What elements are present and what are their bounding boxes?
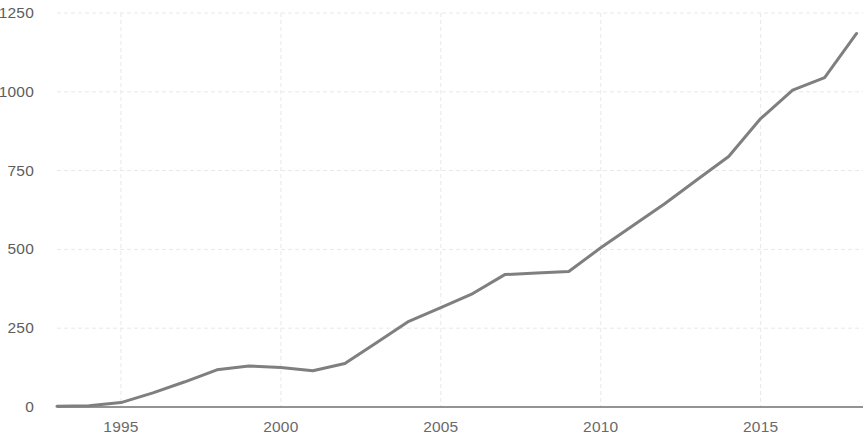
y-axis-tick-label: 250 xyxy=(0,320,34,336)
x-axis-tick-label: 2005 xyxy=(423,419,458,435)
horizontal-gridlines xyxy=(57,13,863,328)
y-axis-tick-label: 1000 xyxy=(0,84,34,100)
line-chart: 025050075010001250 19952000200520102015 xyxy=(0,0,863,441)
chart-plot-area xyxy=(0,0,863,441)
y-axis-tick-label: 0 xyxy=(0,399,34,415)
y-axis-tick-label: 500 xyxy=(0,241,34,257)
x-axis-tick-label: 2010 xyxy=(583,419,618,435)
y-axis-tick-label: 750 xyxy=(0,163,34,179)
x-axis-tick-label: 2015 xyxy=(743,419,778,435)
data-series-line xyxy=(57,33,857,406)
x-axis-tick-label: 1995 xyxy=(103,419,138,435)
x-axis-tick-label: 2000 xyxy=(263,419,298,435)
vertical-gridlines xyxy=(121,13,761,407)
y-axis-tick-label: 1250 xyxy=(0,5,34,21)
